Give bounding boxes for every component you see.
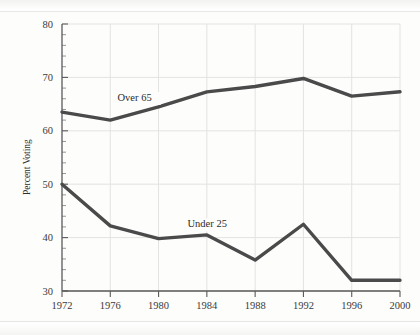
x-tick-label-1972: 1972: [52, 300, 73, 311]
x-tick-label-1984: 1984: [196, 300, 218, 311]
y-tick-label-50: 50: [43, 179, 54, 190]
y-tick-label-80: 80: [43, 19, 54, 30]
x-tick-label-1976: 1976: [100, 300, 121, 311]
chart-svg: 807060504030 197219761980198419881992199…: [0, 0, 420, 335]
y-tick-label-40: 40: [43, 232, 54, 243]
gridlines-group: [62, 24, 400, 291]
series-annotation-over-65: Over 65: [118, 92, 152, 103]
x-tick-label-1992: 1992: [293, 300, 314, 311]
axes-group: [62, 24, 400, 291]
y-tick-label-30: 30: [43, 286, 54, 297]
series-line-under-25: [62, 184, 400, 280]
x-tick-label-1996: 1996: [341, 300, 362, 311]
minor-ticks-group: [62, 24, 68, 291]
x-tick-labels-group: 19721976198019841988199219962000: [52, 300, 411, 311]
x-tick-marks-group: [62, 291, 400, 297]
vertical-gridlines-group: [110, 24, 400, 291]
x-tick-label-1980: 1980: [148, 300, 169, 311]
scan-bottom-edge: [0, 321, 420, 335]
y-axis-title: Percent Voting: [22, 139, 32, 195]
chart-page: 807060504030 197219761980198419881992199…: [0, 0, 420, 335]
series-line-over-65: [62, 78, 400, 120]
x-tick-label-2000: 2000: [390, 300, 411, 311]
y-tick-label-70: 70: [43, 72, 54, 83]
series-lines-group: [62, 78, 400, 280]
y-tick-label-60: 60: [43, 125, 54, 136]
line-chart: 807060504030 197219761980198419881992199…: [0, 0, 420, 335]
y-tick-labels-group: 807060504030: [43, 19, 54, 297]
x-tick-label-1988: 1988: [245, 300, 266, 311]
series-annotation-under-25: Under 25: [188, 218, 227, 229]
